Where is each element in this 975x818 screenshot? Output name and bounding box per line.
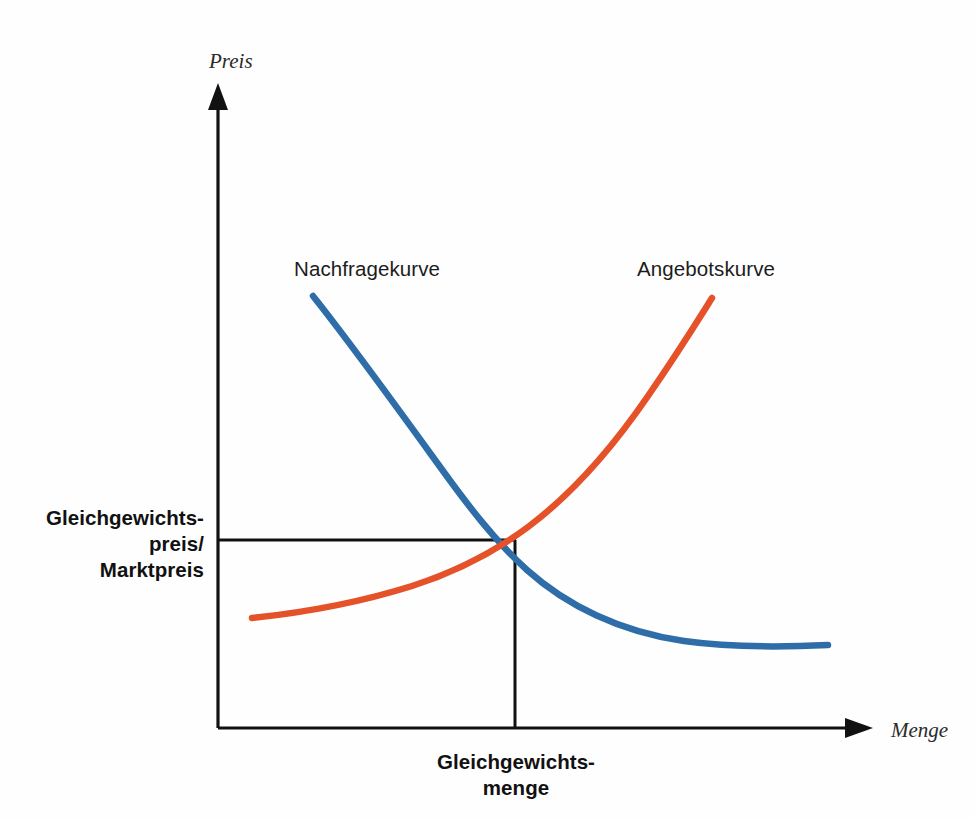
equilibrium-price-label-line-1: Gleichgewichts- xyxy=(46,506,204,529)
equilibrium-price-label-line-3: Marktpreis xyxy=(100,558,204,581)
x-axis-title: Menge xyxy=(890,718,948,742)
chart-canvas: Preis Menge Nachfragekurve Angebotskurve… xyxy=(0,0,975,818)
supply-curve-label: Angebotskurve xyxy=(637,257,775,280)
equilibrium-quantity-label: Gleichgewichts- menge xyxy=(437,750,595,799)
equilibrium-price-label: Gleichgewichts- preis/ Marktpreis xyxy=(46,506,204,581)
y-axis-title: Preis xyxy=(208,49,253,73)
supply-curve xyxy=(252,298,712,618)
y-axis-arrowhead xyxy=(208,83,228,110)
equilibrium-price-label-line-2: preis/ xyxy=(149,532,204,555)
demand-curve-label: Nachfragekurve xyxy=(294,257,440,280)
equilibrium-quantity-label-line-2: menge xyxy=(483,776,549,799)
supply-demand-diagram: Preis Menge Nachfragekurve Angebotskurve… xyxy=(0,0,975,818)
equilibrium-guides xyxy=(218,540,516,728)
axis-group xyxy=(208,83,873,738)
curve-group xyxy=(252,296,828,646)
x-axis-arrowhead xyxy=(845,718,873,738)
equilibrium-quantity-label-line-1: Gleichgewichts- xyxy=(437,750,595,773)
